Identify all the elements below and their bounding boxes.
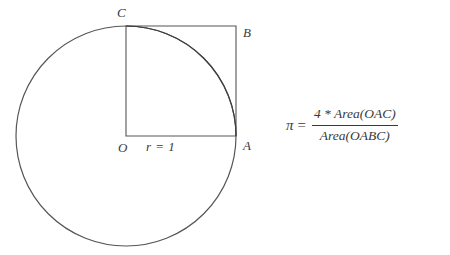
vertex-label-o: O <box>118 141 127 154</box>
quarter-arc-shape <box>126 26 236 136</box>
vertex-label-c: C <box>117 6 126 19</box>
vertex-label-b: B <box>243 26 251 39</box>
equals-sign: = <box>298 117 306 134</box>
geometry-diagram: C B A O r = 1 <box>0 0 280 255</box>
figure-root: C B A O r = 1 π = 4 * Area(OAC) Area(OAB… <box>0 0 450 255</box>
fraction-denominator: Area(OABC) <box>318 127 392 145</box>
fraction-numerator: 4 * Area(OAC) <box>312 105 398 123</box>
geometry-svg <box>0 0 280 255</box>
radius-label: r = 1 <box>146 140 175 153</box>
pi-formula: π = 4 * Area(OAC) Area(OABC) <box>286 96 446 154</box>
square-shape <box>126 26 236 136</box>
fraction: 4 * Area(OAC) Area(OABC) <box>312 105 398 144</box>
fraction-bar <box>312 125 398 126</box>
pi-symbol: π <box>286 117 294 134</box>
vertex-label-a: A <box>243 139 251 152</box>
